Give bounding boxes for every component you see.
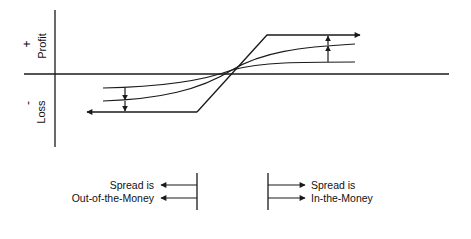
steeper-curve (103, 44, 355, 101)
itm-label-line1: Spread is (311, 179, 355, 192)
itm-label-line2: In-the-Money (311, 192, 373, 205)
flatter-curve (103, 62, 355, 88)
loss-sign: - (21, 101, 35, 105)
profit-sign: + (20, 40, 34, 47)
diagram-canvas (0, 0, 471, 239)
otm-label-line1: Spread is (110, 179, 154, 192)
loss-label: Loss (35, 95, 47, 129)
otm-label-line2: Out-of-the-Money (72, 192, 154, 205)
profit-label: Profit (36, 26, 48, 66)
payoff-diagram: + Profit - Loss Spread is Out-of-the-Mon… (0, 0, 471, 239)
